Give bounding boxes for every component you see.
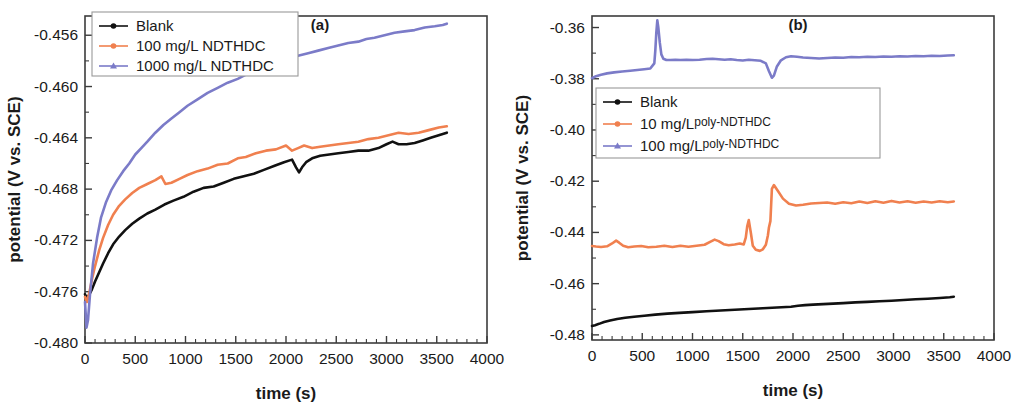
panel-tag: (a) — [311, 16, 329, 33]
x-tick-label: 500 — [122, 350, 148, 367]
x-tick-label: 3500 — [927, 347, 962, 364]
panel-a-plot: 05001000150020002500300035004000-0.456-0… — [0, 0, 507, 406]
x-tick-label: 1500 — [726, 347, 761, 364]
y-tick-label: -0.476 — [34, 283, 78, 300]
y-tick-label: -0.480 — [34, 334, 78, 351]
legend-marker-circle-1 — [111, 43, 117, 49]
legend-label-0: Blank — [136, 17, 174, 34]
y-axis-label: potential (V vs. SCE) — [5, 96, 24, 262]
y-tick-label: -0.48 — [550, 326, 585, 343]
y-tick-label: -0.36 — [550, 19, 585, 36]
series-line-1 — [592, 185, 954, 251]
y-tick-label: -0.464 — [34, 129, 78, 146]
legend-marker-circle-1 — [615, 121, 621, 127]
x-tick-label: 2000 — [269, 350, 304, 367]
y-axis-label: potential (V vs. SCE) — [513, 95, 532, 261]
series-line-2 — [592, 20, 954, 78]
legend-marker-circle-0 — [111, 23, 117, 29]
y-tick-label: -0.40 — [550, 121, 586, 138]
y-tick-label: -0.468 — [34, 180, 78, 197]
x-tick-label: 3500 — [420, 350, 455, 367]
x-tick-label: 0 — [81, 350, 90, 367]
x-tick-label: 4000 — [977, 347, 1012, 364]
x-tick-label: 1000 — [168, 350, 203, 367]
panel-b-plot: 05001000150020002500300035004000-0.36-0.… — [508, 0, 1015, 406]
y-tick-label: -0.460 — [34, 78, 78, 95]
x-tick-label: 3000 — [876, 347, 911, 364]
y-tick-label: -0.456 — [34, 26, 78, 43]
y-tick-label: -0.42 — [550, 172, 585, 189]
legend-label-1: 100 mg/L NDTHDC — [136, 37, 266, 54]
x-tick-label: 2500 — [826, 347, 861, 364]
legend-label-0: Blank — [640, 93, 678, 110]
panel-a: 05001000150020002500300035004000-0.456-0… — [0, 0, 507, 406]
figure-root: 05001000150020002500300035004000-0.456-0… — [0, 0, 1015, 406]
panel-b: 05001000150020002500300035004000-0.36-0.… — [508, 0, 1015, 406]
x-tick-label: 3000 — [369, 350, 404, 367]
x-tick-label: 2500 — [319, 350, 354, 367]
y-tick-label: -0.44 — [550, 223, 586, 240]
x-tick-label: 1000 — [675, 347, 710, 364]
x-tick-label: 2000 — [776, 347, 811, 364]
x-axis-label: time (s) — [763, 381, 823, 400]
legend-label-2: 1000 mg/L NDTHDC — [136, 57, 274, 74]
x-axis-label: time (s) — [256, 384, 316, 403]
x-tick-label: 1500 — [219, 350, 254, 367]
panel-tag: (b) — [788, 16, 807, 33]
y-tick-label: -0.38 — [550, 70, 585, 87]
series-line-1 — [85, 126, 447, 302]
legend-marker-circle-0 — [615, 99, 621, 105]
series-line-0 — [85, 133, 447, 298]
series-line-0 — [592, 297, 954, 326]
x-tick-label: 0 — [588, 347, 597, 364]
x-tick-label: 500 — [629, 347, 655, 364]
y-tick-label: -0.46 — [550, 275, 585, 292]
x-tick-label: 4000 — [470, 350, 505, 367]
y-tick-label: -0.472 — [34, 231, 78, 248]
